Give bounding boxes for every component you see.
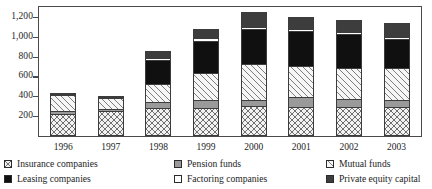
bar-segment-insurance-companies [193, 108, 219, 136]
bar-segment-factoring-companies [384, 37, 410, 39]
bar-segment-factoring-companies [145, 58, 171, 60]
y-axis-tick-mark [33, 96, 38, 97]
y-axis-tick-label: 600 [0, 71, 33, 81]
bar-segment-insurance-companies [336, 107, 362, 136]
y-axis-tick-label: 400 [0, 91, 33, 101]
bar-1996 [50, 93, 76, 135]
cross-hatch-swatch-icon [4, 160, 12, 168]
x-axis-tick-label: 1998 [135, 142, 181, 152]
stacked-bar-chart: 2004006008001,0001,200 19961997199819992… [0, 0, 432, 189]
y-axis-tick-mark [33, 37, 38, 38]
bar-segment-pension-funds [384, 100, 410, 107]
x-axis-tick-label: 2003 [374, 142, 420, 152]
bar-segment-factoring-companies [50, 93, 76, 94]
bar-segment-pension-funds [288, 97, 314, 107]
legend-label: Private equity capital [339, 171, 421, 186]
legend-item-factoring-companies: Factoring companies [174, 171, 326, 186]
black-swatch-icon [4, 175, 12, 183]
legend-label: Insurance companies [17, 156, 98, 171]
bar-segment-private-equity-capital [336, 20, 362, 32]
y-axis-tick-mark [33, 17, 38, 18]
bar-segment-mutual-funds [336, 68, 362, 100]
dark-gray-swatch-icon [326, 175, 334, 183]
bar-segment-private-equity-capital [145, 51, 171, 58]
gray-swatch-icon [174, 160, 182, 168]
bar-segment-leasing-companies [288, 31, 314, 66]
bar-segment-mutual-funds [98, 98, 124, 109]
y-axis-tick-label: 200 [0, 111, 33, 121]
bar-segment-insurance-companies [98, 111, 124, 135]
bar-segment-pension-funds [241, 100, 267, 106]
bar-segment-pension-funds [98, 109, 124, 111]
diagonal-hatch-swatch-icon [326, 160, 334, 168]
x-axis-tick-label: 2002 [326, 142, 372, 152]
y-axis-tick-mark [33, 116, 38, 117]
x-axis-tick-label: 1996 [40, 142, 86, 152]
bar-1997 [98, 96, 124, 135]
bar-segment-leasing-companies [384, 39, 410, 68]
bar-segment-leasing-companies [145, 60, 171, 84]
bar-segment-factoring-companies [288, 29, 314, 31]
bar-segment-insurance-companies [50, 114, 76, 136]
bar-segment-private-equity-capital [384, 23, 410, 37]
bars-layer [39, 7, 420, 135]
bar-segment-leasing-companies [193, 41, 219, 74]
bar-segment-insurance-companies [288, 107, 314, 136]
bar-segment-private-equity-capital [193, 29, 219, 39]
bar-segment-mutual-funds [145, 84, 171, 102]
bar-segment-private-equity-capital [288, 17, 314, 29]
bar-segment-factoring-companies [241, 27, 267, 29]
chart-legend: Insurance companies Pension funds Mutual… [4, 156, 428, 188]
bar-segment-pension-funds [50, 111, 76, 113]
legend-item-insurance-companies: Insurance companies [4, 156, 174, 171]
y-axis-tick-label: 1,000 [0, 32, 33, 42]
x-axis-tick-label: 2000 [231, 142, 277, 152]
legend-label: Pension funds [187, 156, 241, 171]
bar-segment-factoring-companies [336, 32, 362, 34]
bar-segment-pension-funds [336, 99, 362, 107]
y-axis-tick-mark [33, 57, 38, 58]
legend-row-2: Leasing companies Factoring companies Pr… [4, 171, 428, 186]
bar-segment-leasing-companies [50, 94, 76, 95]
bar-2000 [241, 12, 267, 136]
x-axis-tick-label: 1997 [88, 142, 134, 152]
bar-segment-mutual-funds [384, 68, 410, 101]
bar-segment-insurance-companies [384, 107, 410, 136]
bar-2002 [336, 20, 362, 136]
bar-segment-insurance-companies [241, 106, 267, 136]
y-axis-tick-label: 1,200 [0, 12, 33, 22]
bar-2003 [384, 23, 410, 136]
bar-segment-mutual-funds [193, 73, 219, 100]
x-axis-tick-label: 1999 [183, 142, 229, 152]
bar-segment-pension-funds [193, 100, 219, 108]
bar-segment-mutual-funds [288, 66, 314, 98]
legend-label: Factoring companies [187, 171, 267, 186]
bar-segment-factoring-companies [193, 38, 219, 40]
bar-1998 [145, 51, 171, 136]
x-axis-tick-label: 2001 [278, 142, 324, 152]
y-axis-tick-mark [33, 76, 38, 77]
bar-segment-pension-funds [145, 102, 171, 109]
bar-segment-leasing-companies [98, 97, 124, 98]
bar-segment-leasing-companies [336, 34, 362, 68]
bar-segment-factoring-companies [98, 96, 124, 97]
bar-segment-mutual-funds [241, 64, 267, 100]
bar-segment-leasing-companies [241, 29, 267, 64]
legend-label: Mutual funds [339, 156, 390, 171]
bar-1999 [193, 29, 219, 136]
legend-item-leasing-companies: Leasing companies [4, 171, 174, 186]
bar-segment-insurance-companies [145, 108, 171, 135]
white-swatch-icon [174, 175, 182, 183]
legend-item-mutual-funds: Mutual funds [326, 156, 390, 171]
bar-2001 [288, 17, 314, 136]
legend-item-pension-funds: Pension funds [174, 156, 326, 171]
legend-label: Leasing companies [17, 171, 91, 186]
bar-segment-mutual-funds [50, 95, 76, 111]
bar-segment-private-equity-capital [241, 12, 267, 27]
y-axis-tick-label: 800 [0, 52, 33, 62]
legend-item-private-equity-capital: Private equity capital [326, 171, 421, 186]
legend-row-1: Insurance companies Pension funds Mutual… [4, 156, 428, 171]
